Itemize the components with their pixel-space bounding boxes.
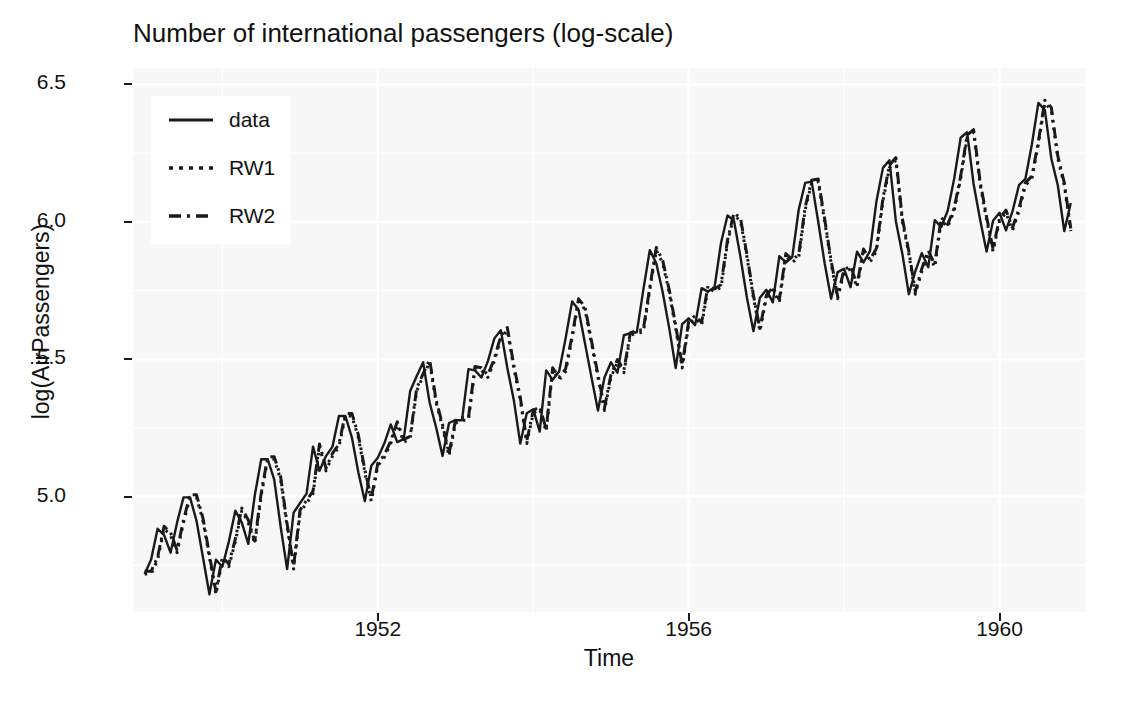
- chart-root: Number of international passengers (log-…: [0, 0, 1126, 705]
- y-tick-mark: [124, 221, 132, 223]
- y-tick-mark: [124, 83, 132, 85]
- y-tick-label: 5.5: [37, 345, 66, 369]
- y-tick-label: 6.0: [37, 208, 66, 232]
- y-tick-mark: [124, 358, 132, 360]
- y-tick-mark: [124, 496, 132, 498]
- legend-item-rw2[interactable]: RW2: [151, 196, 291, 236]
- legend-label-data: data: [229, 108, 270, 132]
- legend-key-dotted-line-icon: [163, 148, 219, 188]
- x-tick-mark: [377, 613, 379, 621]
- legend-label-rw1: RW1: [229, 156, 275, 180]
- legend-item-rw1[interactable]: RW1: [151, 148, 291, 188]
- chart-legend: data RW1 RW2: [151, 96, 291, 244]
- legend-label-rw2: RW2: [229, 204, 275, 228]
- y-tick-label: 5.0: [37, 483, 66, 507]
- legend-key-dashed-line-icon: [163, 196, 219, 236]
- x-tick-mark: [999, 613, 1001, 621]
- x-axis-title: Time: [133, 645, 1085, 672]
- legend-key-solid-line-icon: [163, 100, 219, 140]
- legend-item-data[interactable]: data: [151, 100, 291, 140]
- chart-title: Number of international passengers (log-…: [133, 18, 674, 49]
- x-tick-mark: [688, 613, 690, 621]
- y-tick-label: 6.5: [37, 70, 66, 94]
